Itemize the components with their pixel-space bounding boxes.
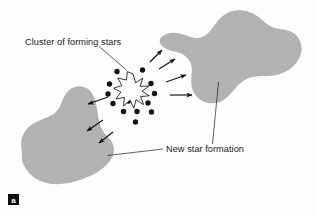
star-dot (110, 101, 115, 106)
star-dot (134, 109, 139, 114)
cluster-label: Cluster of forming stars (25, 37, 122, 47)
star-dot (152, 91, 157, 96)
star-dot (121, 109, 126, 114)
star-dot (107, 81, 112, 86)
star-dot (149, 109, 154, 114)
star-dot (105, 91, 110, 96)
panel-badge-label: a (11, 196, 16, 205)
new-star-formation-label: New star formation (166, 144, 244, 154)
figure-panel: Cluster of forming stars New star format… (0, 0, 317, 217)
star-dot (114, 69, 119, 74)
star-dot (148, 81, 153, 86)
star-dot (140, 67, 145, 72)
star-dot (133, 119, 138, 124)
star-dot (145, 100, 150, 105)
